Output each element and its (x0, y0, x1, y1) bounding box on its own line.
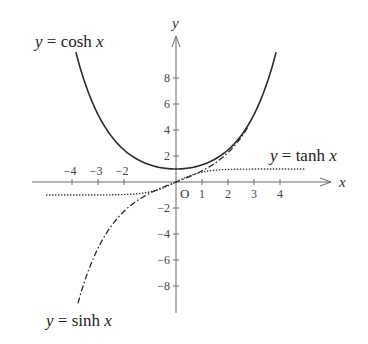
sinh-label: y = sinh x (44, 311, 112, 330)
x-tick-label: 4 (277, 187, 283, 201)
y-tick-label: 6 (164, 97, 170, 111)
x-tick-label: 2 (225, 187, 231, 201)
y-tick-label: −8 (157, 279, 170, 293)
x-axis-label: x (338, 174, 346, 190)
cosh-label: y = cosh x (33, 32, 104, 51)
x-tick-label: −3 (90, 164, 103, 178)
y-axis-label: y (170, 15, 179, 31)
y-tick-label: −6 (157, 253, 170, 267)
x-tick-label: 1 (199, 187, 205, 201)
x-tick-label: −2 (116, 164, 129, 178)
y-tick-label: 8 (164, 71, 170, 85)
y-axis: y (170, 15, 180, 313)
hyperbolic-functions-chart: x y −4−3−21234 8642−2−4−6−8 O y = cosh x… (0, 0, 368, 344)
x-tick-label: 3 (251, 187, 257, 201)
tanh-label: y = tanh x (268, 146, 337, 165)
chart-canvas: x y −4−3−21234 8642−2−4−6−8 O y = cosh x… (0, 0, 368, 344)
y-tick-label: −2 (157, 201, 170, 215)
y-tick-label: 2 (164, 149, 170, 163)
y-tick-label: −4 (157, 227, 170, 241)
origin-label: O (180, 186, 189, 201)
x-tick-label: −4 (64, 164, 77, 178)
y-tick-label: 4 (164, 123, 170, 137)
